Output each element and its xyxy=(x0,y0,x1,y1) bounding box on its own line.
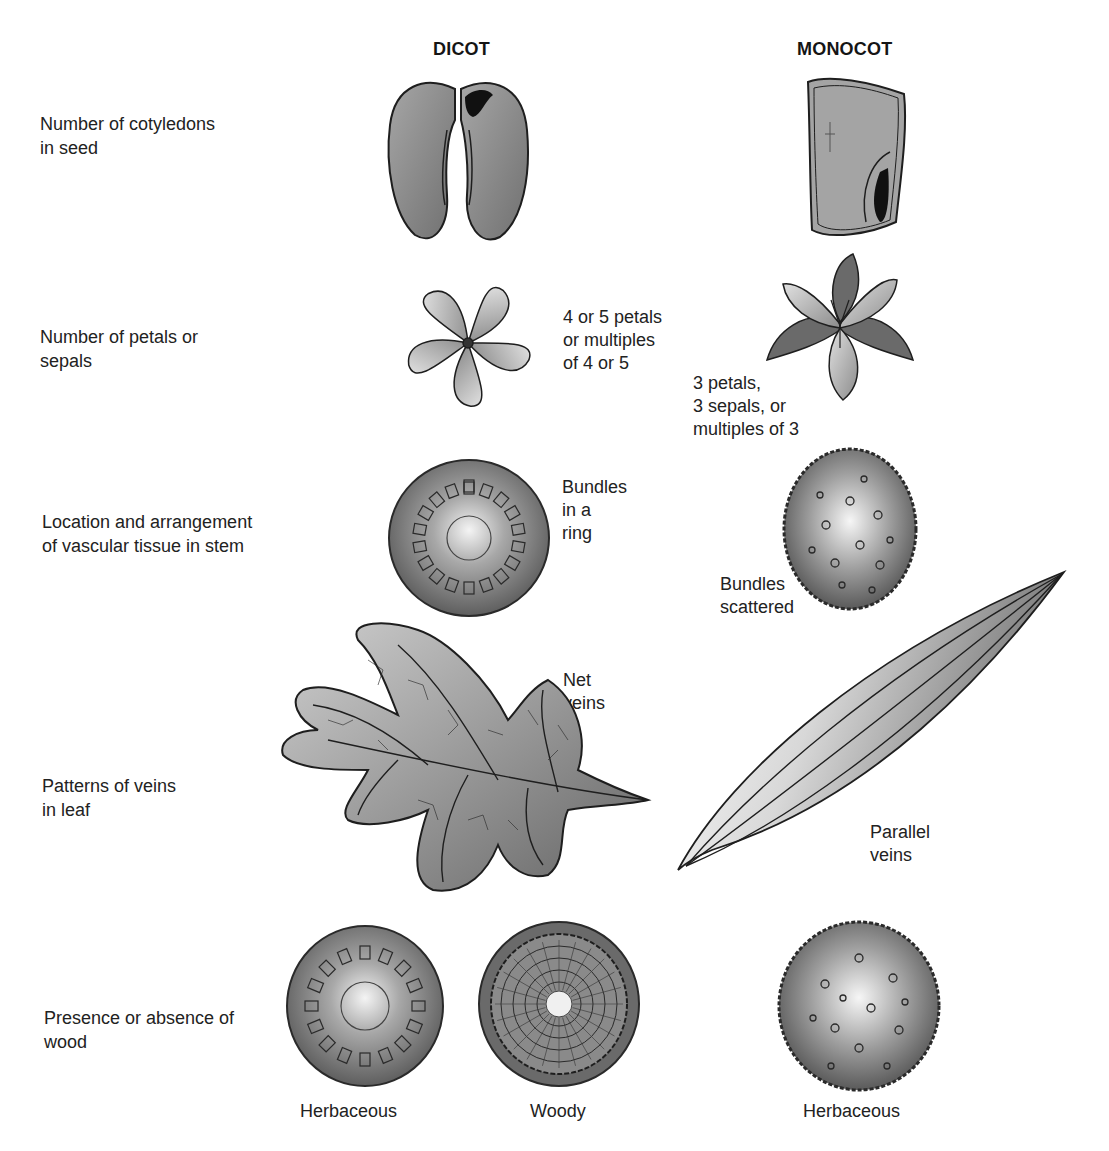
lily-flower-icon xyxy=(765,252,915,402)
caption-dicot-woody: Woody xyxy=(530,1101,586,1122)
oak-leaf-icon xyxy=(268,620,658,900)
herbaceous-stem-icon xyxy=(285,922,445,1092)
caption-dicot-herbaceous: Herbaceous xyxy=(300,1101,397,1122)
row-label-wood: Presence or absence of wood xyxy=(44,1006,234,1054)
five-petal-flower-icon xyxy=(400,278,540,408)
caption-monocot-herbaceous: Herbaceous xyxy=(803,1101,900,1122)
monocot-herbaceous-stem-icon xyxy=(775,918,945,1098)
row-label-cotyledons: Number of cotyledons in seed xyxy=(40,112,215,160)
corn-kernel-icon xyxy=(800,72,920,242)
row-label-leaf-veins: Patterns of veins in leaf xyxy=(42,774,176,822)
row-label-vascular-tissue: Location and arrangement of vascular tis… xyxy=(42,510,252,558)
dicot-petal-note: 4 or 5 petals or multiples of 4 or 5 xyxy=(563,306,662,375)
monocot-column-header: MONOCOT xyxy=(797,39,892,60)
dicot-stem-ring-icon xyxy=(385,458,555,618)
woody-stem-icon xyxy=(475,918,645,1093)
dicot-stem-note: Bundles in a ring xyxy=(562,476,627,545)
row-label-petals: Number of petals or sepals xyxy=(40,325,198,373)
dicot-column-header: DICOT xyxy=(433,39,490,60)
grass-leaf-icon xyxy=(672,570,1072,875)
bean-seed-icon xyxy=(385,75,535,245)
